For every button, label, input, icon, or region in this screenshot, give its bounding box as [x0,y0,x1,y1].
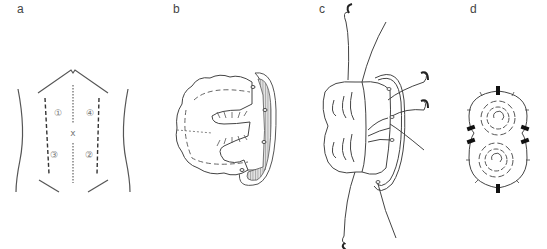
panel-a: a x ① ④ ③ ② [0,0,140,249]
port-3: ③ [50,150,58,160]
anchor-markers [467,86,530,193]
panel-d: d [430,0,547,249]
port-2: ② [85,150,93,160]
curved-needles [343,4,428,249]
bowel-pouch-diagram [140,0,300,249]
port-1: ① [54,108,62,118]
umbilicus-mark: x [70,128,76,138]
port-4: ④ [86,108,94,118]
anchored-pouch-diagram [300,0,430,249]
panel-c: c [300,0,430,249]
panel-b: b [140,0,300,249]
abdomen-port-diagram: x ① ④ ③ ② [0,0,140,249]
completed-construct-diagram [430,0,547,249]
